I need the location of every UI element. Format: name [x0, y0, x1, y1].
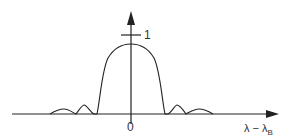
x-axis-label-main: λ − λ	[244, 122, 268, 134]
spectrum-diagram	[0, 0, 289, 140]
y-tick-label: 1	[144, 29, 151, 41]
y-axis-arrow-icon	[127, 11, 135, 25]
x-axis-label: λ − λB	[244, 122, 273, 139]
x-axis-arrow-icon	[266, 110, 279, 118]
x-axis-label-subscript: B	[268, 128, 273, 137]
origin-label: 0	[127, 121, 134, 133]
